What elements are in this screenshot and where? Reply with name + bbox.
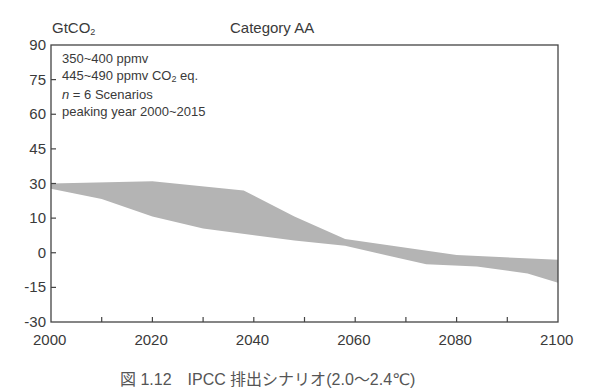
scenario-annotation: 350~400 ppmv 445~490 ppmv CO2 eq. n = 6 … <box>62 51 205 120</box>
y-tick-label: -15 <box>24 278 46 295</box>
annotation-peaking-year: peaking year 2000~2015 <box>62 104 205 121</box>
y-tick-label: 60 <box>29 105 46 122</box>
emissions-range-band <box>51 181 558 283</box>
y-tick-label: 0 <box>38 244 46 261</box>
x-tick-label: 2040 <box>236 331 269 348</box>
y-tick-label: 10 <box>29 209 46 226</box>
y-axis-unit-label: GtCO2 <box>52 19 95 37</box>
x-tick-label: 2000 <box>33 331 66 348</box>
y-tick-label: 90 <box>29 36 46 53</box>
x-tick-label: 2020 <box>134 331 167 348</box>
y-tick-label: -30 <box>24 313 46 330</box>
annotation-co2eq: 445~490 ppmv CO2 eq. <box>62 68 205 88</box>
x-tick-label: 2060 <box>337 331 370 348</box>
figure-caption: 図 1.12 IPCC 排出シナリオ(2.0～2.4℃) <box>120 366 415 390</box>
y-tick-label: 75 <box>29 71 46 88</box>
annotation-concentration: 350~400 ppmv <box>62 51 205 68</box>
y-tick-label: 30 <box>29 175 46 192</box>
x-tick-label: 2100 <box>540 331 573 348</box>
y-tick-label: 45 <box>29 140 46 157</box>
annotation-scenario-count: n = 6 Scenarios <box>62 87 205 104</box>
x-tick-label: 2080 <box>439 331 472 348</box>
chart-title: Category AA <box>230 19 314 36</box>
